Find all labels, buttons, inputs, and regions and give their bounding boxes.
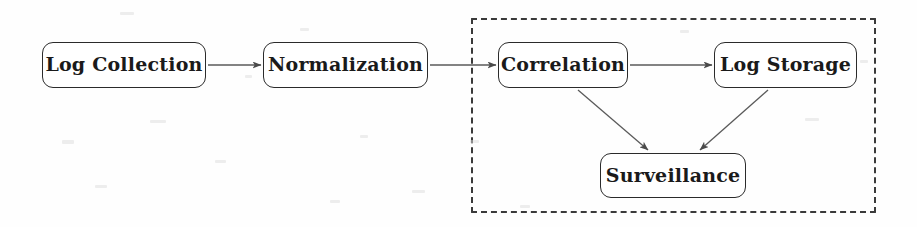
node-correlation[interactable]: Correlation [498,42,628,88]
node-surveillance[interactable]: Surveillance [600,153,746,198]
node-normalization[interactable]: Normalization [263,42,428,88]
node-log-collection-label: Log Collection [45,55,202,75]
node-log-collection[interactable]: Log Collection [42,42,206,88]
node-log-storage[interactable]: Log Storage [714,42,857,88]
node-correlation-label: Correlation [501,55,625,75]
node-normalization-label: Normalization [268,55,423,75]
diagram-canvas: Log Collection Normalization Correlation… [0,0,917,227]
node-log-storage-label: Log Storage [720,55,851,75]
node-surveillance-label: Surveillance [606,166,741,186]
